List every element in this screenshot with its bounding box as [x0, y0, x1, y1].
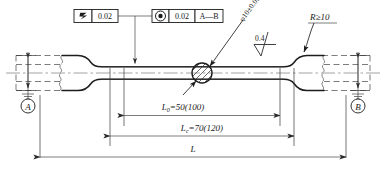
total-length-dimension: L — [40, 144, 346, 157]
concentricity-tolerance-value: 0.02 — [175, 12, 189, 21]
gauge-length-dimension: L0=50(100) — [124, 102, 280, 116]
datum-b[interactable]: B — [350, 52, 370, 113]
datum-a-letter: A — [24, 102, 31, 112]
total-length-label: L — [189, 144, 195, 154]
frame-connector-lines — [118, 16, 152, 64]
concentricity-frame[interactable]: 0.02 A—B — [152, 10, 223, 23]
datum-b-letter: B — [355, 102, 361, 112]
specimen-drawing-svg: 0.02 0.02 A—B φ10±0.05 0.4 — [0, 0, 387, 174]
surface-roughness-value: 0.4 — [255, 34, 265, 43]
radius-note: R≥10 — [304, 12, 337, 52]
straightness-tolerance-value: 0.02 — [98, 12, 112, 21]
parallel-length-dimension: Lc=70(120) — [110, 123, 294, 136]
diameter-leader — [183, 20, 243, 95]
gauge-length-label: L0=50(100) — [161, 102, 205, 113]
concentricity-datum-reference: A—B — [199, 12, 218, 21]
technical-drawing-canvas: 0.02 0.02 A—B φ10±0.05 0.4 — [0, 0, 387, 174]
datum-a[interactable]: A — [16, 52, 36, 113]
diameter-callout: φ10±0.05 — [237, 0, 262, 23]
surface-roughness-symbol: 0.4 — [254, 32, 276, 56]
straightness-frame[interactable]: 0.02 — [74, 10, 118, 23]
diameter-callout-text: φ10±0.05 — [237, 0, 262, 23]
parallel-length-label: Lc=70(120) — [180, 123, 223, 134]
radius-note-text: R≥10 — [309, 12, 330, 22]
